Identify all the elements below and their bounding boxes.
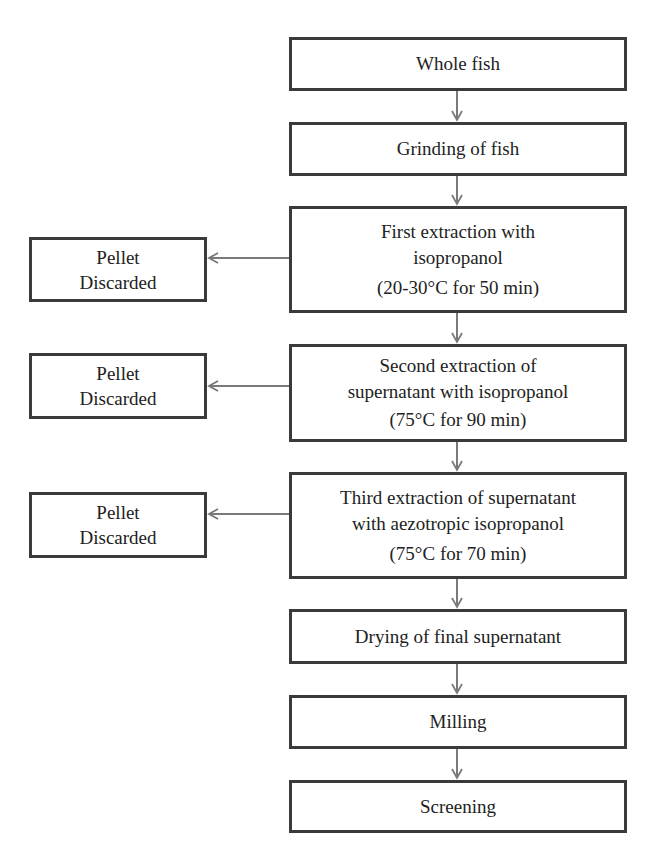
step-label: isopropanol (413, 245, 503, 271)
step-third-extraction: Third extraction of supernatant with aez… (289, 472, 627, 579)
step-label: Whole fish (416, 51, 500, 77)
step-label: Third extraction of supernatant (340, 485, 576, 511)
pellet-discarded-2: Pellet Discarded (29, 353, 207, 419)
side-label: Discarded (79, 386, 156, 411)
step-milling: Milling (289, 695, 627, 749)
step-condition: (20-30°C for 50 min) (377, 275, 539, 301)
side-label: Pellet (96, 500, 139, 525)
step-label: Milling (429, 709, 486, 735)
side-label: Discarded (79, 270, 156, 295)
step-label: with aezotropic isopropanol (352, 511, 564, 537)
side-label: Pellet (96, 245, 139, 270)
step-condition: (75°C for 90 min) (390, 407, 527, 433)
step-label: Drying of final supernatant (355, 624, 561, 650)
pellet-discarded-3: Pellet Discarded (29, 492, 207, 558)
step-label: Second extraction of (379, 353, 536, 379)
step-label: First extraction with (381, 219, 535, 245)
step-label: Grinding of fish (397, 136, 519, 162)
step-screening: Screening (289, 780, 627, 833)
side-label: Discarded (79, 525, 156, 550)
step-label: supernatant with isopropanol (348, 379, 569, 405)
step-first-extraction: First extraction with isopropanol (20-30… (289, 206, 627, 313)
step-condition: (75°C for 70 min) (390, 541, 527, 567)
pellet-discarded-1: Pellet Discarded (29, 237, 207, 302)
side-label: Pellet (96, 361, 139, 386)
step-label: Screening (420, 794, 496, 820)
step-drying: Drying of final supernatant (289, 609, 627, 664)
step-second-extraction: Second extraction of supernatant with is… (289, 344, 627, 442)
step-whole-fish: Whole fish (289, 37, 627, 91)
step-grinding: Grinding of fish (289, 122, 627, 176)
